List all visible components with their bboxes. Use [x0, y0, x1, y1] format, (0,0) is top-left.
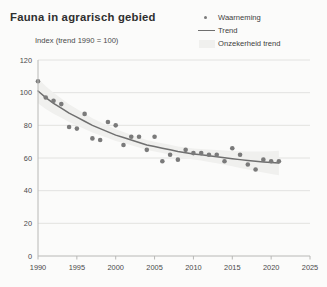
y-axis-tick-label: 80 [24, 121, 32, 130]
data-point [230, 146, 235, 151]
data-point [277, 159, 282, 164]
x-axis-tick-label: 2010 [185, 263, 201, 272]
data-point [75, 126, 80, 131]
data-point [106, 120, 111, 125]
data-point [113, 123, 118, 128]
data-point [261, 157, 266, 162]
data-point [152, 134, 157, 139]
data-point [129, 134, 134, 139]
data-point [137, 134, 142, 139]
data-point [176, 157, 181, 162]
data-point [222, 159, 227, 164]
y-axis-tick-label: 120 [20, 56, 32, 65]
y-axis-tick-label: 0 [28, 252, 32, 261]
data-point [246, 162, 251, 167]
y-axis-tick-labels: 020406080100120 [20, 56, 32, 261]
chart-container: Fauna in agrarisch gebied Index (trend 1… [0, 0, 327, 287]
x-axis-tick-label: 1990 [30, 263, 46, 272]
data-point [67, 125, 72, 130]
data-point [43, 95, 48, 100]
data-point [269, 159, 274, 164]
data-point [238, 152, 243, 157]
x-axis-tick-label: 1995 [69, 263, 85, 272]
data-point [59, 102, 64, 107]
y-axis-tick-label: 20 [24, 219, 32, 228]
x-axis-tick-labels: 19901995200020052010201520202025 [30, 263, 318, 272]
chart-plot: 020406080100120 199019952000200520102015… [0, 0, 327, 287]
data-point [168, 152, 173, 157]
data-point [191, 151, 196, 156]
x-axis-tick-label: 2000 [107, 263, 123, 272]
data-point [183, 148, 188, 153]
data-point [207, 152, 212, 157]
data-point [199, 151, 204, 156]
x-axis-tick-label: 2015 [224, 263, 240, 272]
gridlines [38, 60, 310, 223]
uncertainty-band [38, 79, 279, 175]
data-point [98, 138, 103, 143]
x-axis-tick-label: 2005 [146, 263, 162, 272]
y-axis-tick-label: 100 [20, 88, 32, 97]
data-point [90, 136, 95, 141]
data-point [214, 152, 219, 157]
data-point [253, 167, 258, 172]
x-axis-tick-label: 2020 [263, 263, 279, 272]
y-axis-tick-label: 60 [24, 154, 32, 163]
x-axis-tick-label: 2025 [302, 263, 318, 272]
y-axis-tick-label: 40 [24, 186, 32, 195]
data-point [82, 112, 87, 117]
data-point [160, 159, 165, 164]
data-point [51, 99, 56, 104]
data-point [145, 148, 150, 153]
data-point [121, 143, 126, 148]
